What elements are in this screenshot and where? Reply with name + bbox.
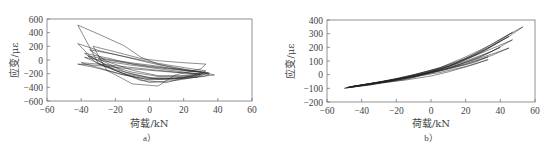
hysteresis-curve-loop3 — [348, 40, 513, 88]
series-group — [344, 27, 523, 89]
x-axis-label: 荷载/kN — [130, 118, 168, 129]
y-tick-label: 400 — [309, 16, 324, 26]
x-axis-label: 荷载/kN — [412, 118, 450, 129]
x-tick-label: −40 — [74, 105, 89, 115]
y-tick-label: 0 — [38, 56, 43, 66]
plot-frame — [327, 20, 535, 102]
x-tick-label: −40 — [354, 106, 369, 116]
y-axis-label: 应变/με — [284, 43, 296, 78]
y-tick-label: 100 — [309, 57, 324, 67]
y-tick-label: −200 — [303, 98, 323, 108]
x-tick-label: −20 — [389, 106, 404, 116]
chart-panel-b: −60−40−2002040604003002001000−100−200荷载/… — [272, 0, 544, 152]
x-tick-label: −60 — [40, 105, 55, 115]
x-tick-label: 60 — [530, 106, 540, 116]
plot-frame — [47, 19, 252, 101]
y-tick-label: −200 — [23, 69, 43, 79]
series-group — [78, 25, 215, 86]
hysteresis-curve-loop8 — [350, 47, 501, 87]
y-tick-label: −600 — [23, 97, 43, 107]
y-tick-label: 0 — [318, 70, 323, 80]
y-tick-label: 400 — [29, 28, 44, 38]
x-tick-label: 40 — [213, 105, 223, 115]
x-tick-label: 20 — [179, 105, 189, 115]
y-tick-label: −100 — [303, 84, 323, 94]
y-tick-label: 600 — [29, 15, 44, 25]
y-tick-label: 200 — [309, 43, 324, 53]
chart-a-plot: −60−40−2002040606004002000−200−400−600荷载… — [0, 0, 272, 152]
y-tick-label: −400 — [23, 83, 43, 93]
hysteresis-curve-loop1 — [344, 27, 523, 89]
x-tick-label: 0 — [429, 106, 434, 116]
y-tick-label: 200 — [29, 42, 44, 52]
subfigure-caption: a） — [143, 133, 156, 143]
hysteresis-curve-loop7 — [348, 36, 509, 87]
x-tick-label: −20 — [108, 105, 123, 115]
x-tick-label: 40 — [496, 106, 506, 116]
x-tick-label: 20 — [461, 106, 471, 116]
x-tick-label: −60 — [320, 106, 335, 116]
chart-b-plot: −60−40−2002040604003002001000−100−200荷载/… — [272, 0, 544, 152]
chart-panel-a: −60−40−2002040606004002000−200−400−600荷载… — [0, 0, 272, 152]
y-axis-label: 应变/με — [8, 42, 20, 77]
y-tick-label: 300 — [309, 29, 324, 39]
subfigure-caption: b） — [424, 133, 438, 143]
x-tick-label: 60 — [247, 105, 257, 115]
x-tick-label: 0 — [147, 105, 152, 115]
